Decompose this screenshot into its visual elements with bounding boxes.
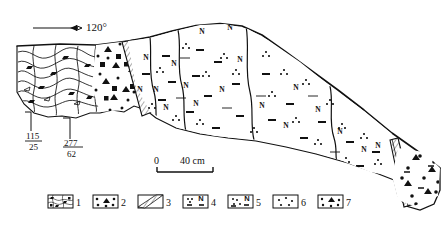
svg-text:N: N: [259, 101, 265, 110]
legend-swatch-6: [273, 195, 298, 208]
legend-number-4: 4: [211, 197, 216, 208]
svg-text:N: N: [337, 127, 343, 136]
scale-max-label: 40 cm: [180, 155, 205, 166]
svg-text:N: N: [237, 55, 243, 64]
svg-text:N: N: [361, 145, 367, 154]
svg-text:N: N: [199, 27, 205, 36]
svg-text:N: N: [163, 103, 169, 112]
svg-text:N: N: [375, 141, 381, 150]
svg-text:N: N: [171, 59, 177, 68]
svg-text:N: N: [315, 105, 321, 114]
legend-swatch-2: [93, 195, 118, 208]
legend: 1 2 3: [48, 194, 351, 208]
legend-swatch-4: N: [183, 194, 208, 208]
dip-direction-label: 120°: [86, 21, 107, 33]
svg-text:N: N: [198, 194, 203, 203]
figure-root: 120°: [0, 0, 445, 241]
scale-bar: [157, 167, 213, 172]
svg-text:N: N: [153, 85, 159, 94]
svg-text:N: N: [193, 99, 199, 108]
attitude-dip-1: 25: [29, 142, 39, 152]
svg-text:N: N: [283, 121, 289, 130]
legend-swatch-1: [48, 195, 73, 208]
legend-number-6: 6: [301, 197, 306, 208]
legend-swatch-7: [318, 195, 343, 208]
scale-min-label: 0: [154, 155, 159, 166]
svg-text:N: N: [183, 81, 189, 90]
folded-marl-unit: [18, 45, 104, 117]
svg-text:N: N: [143, 53, 149, 62]
legend-number-7: 7: [346, 197, 351, 208]
attitude-label-1: 115: [26, 131, 40, 141]
svg-text:N: N: [244, 194, 249, 203]
legend-swatch-5: N: [228, 194, 253, 208]
attitude-dip-2: 62: [67, 149, 76, 159]
svg-text:N: N: [219, 85, 225, 94]
dip-direction-symbol: [33, 25, 82, 31]
legend-swatch-3: [138, 195, 163, 208]
legend-number-3: 3: [166, 197, 171, 208]
legend-number-5: 5: [256, 197, 261, 208]
cross-section-figure: 120°: [0, 0, 445, 241]
legend-number-1: 1: [76, 197, 81, 208]
nodular-mudstone-body: N N N N N N N N N N N N N N N N N N: [126, 20, 406, 190]
legend-number-2: 2: [121, 197, 126, 208]
attitude-label-2: 277: [64, 138, 78, 148]
svg-text:N: N: [293, 83, 299, 92]
